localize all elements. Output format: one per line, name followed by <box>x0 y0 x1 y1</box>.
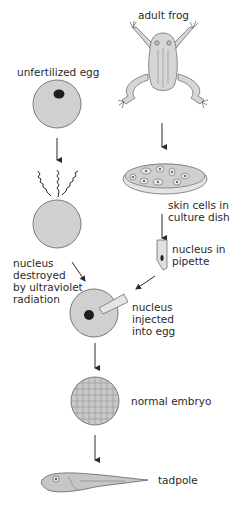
label-tadpole: tadpole <box>158 474 198 486</box>
tadpole-illustration <box>41 473 148 492</box>
culture-dish-illustration <box>123 164 207 194</box>
label-normal-embryo: normal embryo <box>131 395 211 407</box>
uv-rays-icon <box>38 170 78 197</box>
arrow-pipette-to-egg <box>136 276 155 289</box>
pipette-illustration <box>157 240 167 270</box>
label-nucleus-destroyed: nucleus destroyed by ultraviolet radiati… <box>13 257 83 305</box>
label-adult-frog: adult frog <box>138 9 189 21</box>
label-unfertilized-egg: unfertilized egg <box>17 66 99 78</box>
uv-destroyed-egg-illustration <box>33 200 81 248</box>
adult-frog-illustration <box>118 21 208 108</box>
unfertilized-egg-illustration <box>33 80 81 128</box>
label-nucleus-injected: nucleus injected into egg <box>132 301 175 337</box>
normal-embryo-illustration <box>71 377 119 425</box>
label-nucleus-pipette: nucleus in pipette <box>172 243 226 267</box>
label-skin-cells: skin cells in culture dish <box>168 199 230 223</box>
